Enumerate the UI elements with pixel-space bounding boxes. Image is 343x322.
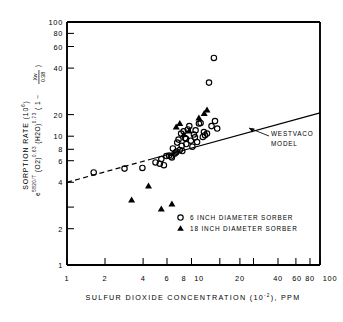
y-tick-label: 6 [58,157,63,166]
legend-label-6-inch: 6 INCH DIAMETER SORBER [190,214,293,221]
x-tick-label: 60 [292,274,302,283]
y-tick-label: 2 [58,225,63,234]
x-tick-label: 100 [323,274,337,283]
x-axis-title-exponent: -2 [264,293,271,298]
annotation-label-line2: MODEL [271,140,298,147]
y-term-xw-close: ) [34,65,42,68]
x-tick-label: 1 [65,274,70,283]
x-tick-label: 8 [182,274,187,283]
y-tick-label: 60 [53,43,63,52]
y-tick-label: 10 [53,132,63,141]
x-tick-label: 40 [273,274,283,283]
y-term-o2-exponent: 0.63 [32,146,37,157]
y-term-fraction-denominator: 0.38 [40,72,46,82]
y-tick-label: 8 [58,145,63,154]
y-term-h2o-exponent: 0.73 [32,112,37,123]
x-axis-tick-labels: 1 2 4 6 8 10 20 40 60 80 100 [65,274,338,283]
y-term-e-exponent: 5820/T [32,174,37,191]
y-term-o2: (O2) [34,157,42,172]
y-axis-title-paren: ) [22,100,30,103]
y-tick-label: 20 [53,111,63,120]
y-tick-label: 80 [53,29,63,38]
y-tick-label: 100 [49,18,63,27]
y-axis-title-line1: SORPTION RATE (106) [21,100,30,190]
x-tick-label: 4 [141,274,146,283]
annotation-label-line1: WESTVACO [271,130,314,137]
legend-label-18-inch: 18 INCH DIAMETER SORBER [190,225,298,232]
y-tick-label: 4 [58,178,63,187]
x-tick-label: 80 [305,274,315,283]
y-tick-label: 1 [58,261,63,270]
x-axis-title-pre: SULFUR DIOXIDE CONCENTRATION (10 [86,293,264,302]
y-term-h2o: (H2O) [34,123,42,143]
y-term-fraction-numerator: Xw [32,73,38,80]
x-tick-label: 10 [194,274,204,283]
y-axis-title-numerator: SORPTION RATE (10 [22,107,30,190]
x-axis-title-post: ), PPM [271,293,301,302]
x-tick-label: 20 [235,274,245,283]
sorption-rate-scatter-plot: 100 80 60 40 20 10 8 6 4 2 1 1 2 4 6 8 1… [0,0,343,322]
y-tick-label: 40 [53,64,63,73]
x-tick-label: 2 [103,274,108,283]
x-tick-label: 6 [165,274,170,283]
y-term-xw-open: ( 1 − [34,94,42,110]
chart-figure: 100 80 60 40 20 10 8 6 4 2 1 1 2 4 6 8 1… [0,0,343,322]
